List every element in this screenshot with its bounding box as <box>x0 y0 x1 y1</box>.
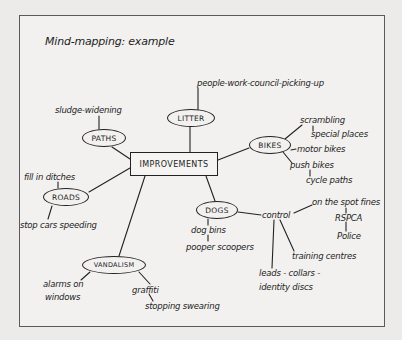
note-control-2: RSPCA <box>335 213 362 223</box>
central-node-improvements: IMPROVEMENTS <box>130 152 218 176</box>
node-vandalism: VANDALISM <box>82 256 146 274</box>
note-control-5: leads - collars - <box>259 268 320 278</box>
note-dogs-1: dog bins <box>191 225 226 235</box>
node-roads: ROADS <box>43 188 89 206</box>
note-roads-1: fill in ditches <box>24 172 75 182</box>
note-vandalism-2: windows <box>45 292 80 302</box>
note-bikes-1: scrambling <box>300 115 345 125</box>
note-control-4: training centres <box>292 251 356 261</box>
note-control-1: on the spot fines <box>312 197 380 207</box>
note-vandalism-4: stopping swearing <box>145 301 220 311</box>
note-bikes-4: push bikes <box>290 160 334 170</box>
node-paths: PATHS <box>82 129 126 147</box>
subnode-control: control <box>262 210 290 220</box>
note-paths-1: sludge-widening <box>55 105 122 115</box>
note-bikes-2: special places <box>311 129 368 139</box>
note-litter-1: people-work-council-picking-up <box>197 78 324 88</box>
diagram-title: Mind-mapping: example <box>45 35 174 48</box>
note-bikes-3: motor bikes <box>297 144 345 154</box>
note-control-3: Police <box>337 231 361 241</box>
note-vandalism-3: graffiti <box>132 285 159 295</box>
note-dogs-2: pooper scoopers <box>186 242 254 252</box>
note-control-6: identity discs <box>259 282 313 292</box>
note-vandalism-1: alarms on <box>43 279 83 289</box>
node-litter: LITTER <box>167 109 215 127</box>
note-bikes-5: cycle paths <box>306 175 352 185</box>
note-roads-2: stop cars speeding <box>20 220 97 230</box>
node-bikes: BIKES <box>249 136 291 154</box>
node-dogs: DOGS <box>196 201 238 219</box>
